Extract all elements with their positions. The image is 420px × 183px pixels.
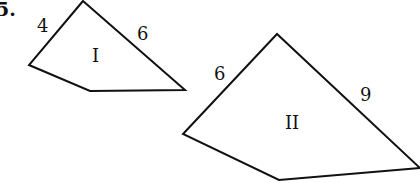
quadrilateral-II <box>183 34 420 180</box>
figure-label-II: II <box>285 112 299 133</box>
side-label-II-right: 9 <box>360 84 371 105</box>
side-label-I-left: 4 <box>37 15 48 36</box>
figure-label-I: I <box>92 45 99 66</box>
side-label-I-right: 6 <box>137 23 148 44</box>
similar-quadrilaterals-diagram: 5. 4 6 I 6 9 II <box>0 0 420 183</box>
figure-II: 6 9 II <box>183 34 420 180</box>
problem-number: 5. <box>0 0 16 20</box>
quadrilateral-I <box>29 1 185 91</box>
figure-I: 4 6 I <box>29 1 185 91</box>
side-label-II-left: 6 <box>214 63 225 84</box>
